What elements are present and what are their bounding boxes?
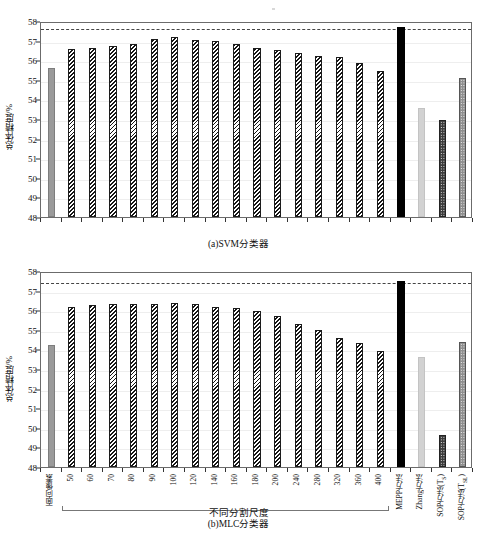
bar-mlc-2 (89, 305, 96, 467)
x-tick-mark (225, 468, 226, 472)
bar-mlc-4 (130, 304, 137, 467)
gridline (41, 43, 471, 44)
x-tick-mark (205, 218, 206, 222)
x-tick-mark (349, 468, 350, 472)
x-tick-mark (390, 468, 391, 472)
x-tick-mark (61, 468, 62, 472)
bar-svm-16 (377, 71, 384, 217)
bar-svm-17 (397, 27, 404, 217)
bar-mlc-18 (418, 357, 425, 467)
bar-svm-9 (233, 44, 240, 217)
bar-mlc-11 (274, 316, 281, 467)
x-tick-label-0: 面向像素 (46, 474, 54, 506)
y-axis-ticks: 4849505152535455565758 (16, 22, 40, 218)
bar-mlc-0 (48, 345, 55, 467)
x-tick-label-8: 140 (211, 474, 219, 485)
x-tick-mark (102, 468, 103, 472)
x-tick-mark (369, 218, 370, 222)
x-tick-label-6: 100 (170, 474, 178, 485)
x-tick-label-13: 280 (314, 474, 322, 485)
x-tick-mark (61, 218, 62, 222)
bar-svm-10 (253, 48, 260, 217)
chart-panel-mlc: 总体精度/% 4849505152535455565758 面向像素506070… (0, 262, 477, 553)
gridline (41, 293, 471, 294)
x-tick-mark (369, 468, 370, 472)
plot-area-mlc (40, 272, 472, 468)
x-tick-mark (102, 218, 103, 222)
x-tick-label-1: 50 (67, 474, 75, 482)
x-tick-label-4: 80 (128, 474, 136, 482)
bar-svm-11 (274, 50, 281, 217)
y-axis-ticks: 4849505152535455565758 (16, 272, 40, 468)
bar-mlc-16 (377, 351, 384, 467)
bar-mlc-14 (336, 338, 343, 467)
x-tick-mark (472, 468, 473, 472)
x-tick-mark (451, 468, 452, 472)
x-tick-mark (328, 468, 329, 472)
bar-svm-14 (336, 57, 343, 217)
x-tick-mark (143, 218, 144, 222)
bar-mlc-3 (109, 304, 116, 467)
bar-svm-3 (109, 46, 116, 218)
x-tick-mark (184, 218, 185, 222)
bar-svm-20 (459, 78, 466, 217)
caption-svm: (a)SVM分类器 (0, 236, 477, 250)
x-tick-label-12: 240 (293, 474, 301, 485)
x-tick-mark (163, 218, 164, 222)
x-tick-label-11: 200 (272, 474, 280, 485)
x-tick-mark (287, 468, 288, 472)
x-tick-mark (81, 218, 82, 222)
bar-mlc-19 (439, 435, 446, 467)
bar-mlc-17 (397, 281, 404, 467)
bar-svm-7 (192, 40, 199, 217)
x-tick-mark (328, 218, 329, 222)
x-tick-label-5: 90 (149, 474, 157, 482)
bar-mlc-7 (192, 304, 199, 467)
bar-svm-5 (151, 39, 158, 217)
x-tick-mark (472, 218, 473, 222)
bar-mlc-20 (459, 342, 466, 467)
x-tick-mark (451, 218, 452, 222)
caption-mlc: (b)MLC分类器 (0, 516, 477, 530)
bar-svm-19 (439, 120, 446, 217)
x-axis-svm (40, 218, 472, 224)
reference-line (41, 283, 471, 284)
bar-mlc-6 (171, 303, 178, 467)
x-tick-mark (246, 468, 247, 472)
x-tick-mark (40, 468, 41, 472)
x-tick-label-10: 180 (252, 474, 260, 485)
x-tick-mark (349, 218, 350, 222)
y-axis-label: 总体精度/% (2, 337, 16, 422)
x-tick-mark (122, 468, 123, 472)
x-tick-mark (266, 468, 267, 472)
x-tick-mark (40, 218, 41, 222)
bar-svm-2 (89, 48, 96, 217)
bar-svm-15 (356, 63, 363, 217)
bar-svm-18 (418, 108, 425, 217)
x-tick-label-16: 400 (375, 474, 383, 485)
bar-svm-13 (315, 56, 322, 217)
reference-line (41, 29, 471, 30)
x-tick-label-15: 360 (355, 474, 363, 485)
x-tick-mark (184, 468, 185, 472)
figure-root: 总体精度/% 4849505152535455565758 (a)SVM分类器 … (0, 0, 477, 553)
x-tick-mark (163, 468, 164, 472)
x-tick-label-3: 70 (108, 474, 116, 482)
bar-svm-0 (48, 68, 55, 217)
x-tick-label-2: 60 (87, 474, 95, 482)
x-tick-mark (225, 218, 226, 222)
x-tick-mark (390, 218, 391, 222)
x-tick-label-9: 160 (231, 474, 239, 485)
x-tick-mark (431, 468, 432, 472)
bar-mlc-13 (315, 330, 322, 467)
x-tick-label-14: 320 (334, 474, 342, 485)
bar-svm-8 (212, 41, 219, 217)
bar-mlc-1 (68, 307, 75, 467)
x-tick-mark (246, 218, 247, 222)
x-tick-mark (122, 218, 123, 222)
bar-mlc-5 (151, 304, 158, 467)
bar-svm-12 (295, 53, 302, 217)
bar-svm-6 (171, 37, 178, 217)
x-tick-mark (287, 218, 288, 222)
x-tick-mark (266, 218, 267, 222)
